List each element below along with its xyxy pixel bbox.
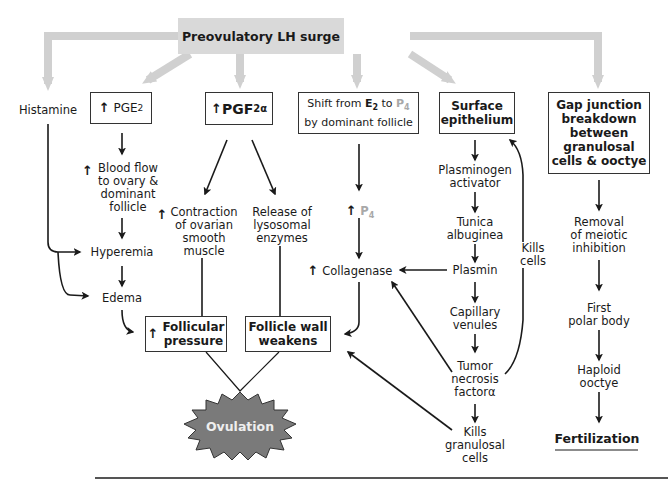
p4-increase-label: ↑ P4 [346, 204, 375, 222]
pge2-text: PGE [113, 101, 137, 115]
hyperemia-label: Hyperemia [91, 246, 154, 259]
p4-sub: 4 [404, 103, 410, 112]
gap-junction-box: Gap junction breakdown between granulosa… [548, 92, 650, 174]
follicular-pressure-box: ↑ Follicularpressure [145, 316, 227, 352]
gap-line1: Gap junction [556, 98, 642, 112]
p4-up-text: P [360, 204, 368, 218]
shift-e2-p4-box: Shift from E2 to P4 by dominant follicle [298, 92, 419, 134]
tnf-line3: factorα [451, 386, 498, 399]
increase-arrow-icon: ↑ [308, 263, 319, 278]
pgf2a-sub: 2α [253, 102, 267, 116]
follicular-line2: pressure [162, 334, 224, 348]
pgf2a-text: PGF [222, 102, 253, 116]
tunica-line2: albuginea [447, 229, 504, 242]
blood-line4: follicle [98, 201, 158, 214]
increase-arrow-icon: ↑ [157, 208, 168, 221]
follicular-text: Follicularpressure [162, 320, 224, 348]
plasminogen-line2: activator [438, 177, 512, 190]
kills-cells-label: Kills cells [520, 242, 546, 268]
increase-arrow-icon: ↑ [82, 164, 93, 177]
haploid-label: Haploid ooctye [577, 364, 621, 390]
contraction-label: ↑ Contraction of ovarian smooth muscle [171, 206, 238, 258]
increase-arrow-icon: ↑ [148, 327, 159, 341]
surface-epithelium-box: Surface epithelium [439, 92, 515, 134]
collagenase-label: ↑ Collagenase [308, 264, 393, 278]
ovulation-label: Ovulation [206, 420, 274, 433]
polar-line2: polar body [568, 315, 629, 328]
pge2-sub: 2 [138, 101, 144, 115]
p4-text: P [396, 97, 404, 110]
fertilization-label: Fertilization [555, 432, 640, 445]
collagenase-text: Collagenase [322, 264, 392, 278]
lh-surge-header: Preovulatory LH surge [178, 18, 344, 54]
lysosomal-label: Release of lysosomal enzymes [252, 206, 312, 245]
shift-text: Shift from [307, 97, 365, 110]
shift-line2: by dominant follicle [304, 115, 413, 130]
surface-line2: epithelium [441, 113, 514, 127]
haploid-line2: ooctye [577, 377, 621, 390]
increase-arrow-icon: ↑ [211, 102, 222, 116]
capillary-line2: venules [450, 319, 501, 332]
pgf2a-box: ↑PGF2α [205, 92, 273, 125]
gap-line2: breakdown [561, 112, 636, 126]
increase-arrow-icon: ↑ [99, 101, 110, 115]
header-title: Preovulatory LH surge [182, 29, 340, 44]
pge2-box: ↑ PGE2 [90, 92, 152, 124]
follicle-wall-box: Follicle wall weakens [245, 316, 331, 352]
contraction-line4: muscle [171, 245, 238, 258]
p4-up-sub: 4 [369, 211, 375, 220]
meiotic-line3: inhibition [570, 242, 627, 255]
tnf-label: Tumor necrosis factorα [451, 360, 498, 399]
capillary-label: Capillary venules [450, 306, 501, 332]
shift-line1: Shift from E2 to P4 [307, 96, 409, 115]
ovulation-connectors [206, 352, 279, 391]
plasminogen-label: Plasminogen activator [438, 164, 512, 190]
edema-label: Edema [102, 292, 142, 305]
polar-body-label: First polar body [568, 302, 629, 328]
tunica-label: Tunica albuginea [447, 216, 504, 242]
kills-g-line3: cells [445, 452, 505, 465]
gap-line4: granulosal [563, 140, 634, 154]
gap-line5: cells & ooctye [552, 154, 647, 168]
plasmin-label: Plasmin [453, 264, 498, 277]
surface-line1: Surface [451, 99, 503, 113]
to-text: to [378, 97, 396, 110]
kills-granulosal-label: Kills granulosal cells [445, 426, 505, 465]
gap-line3: between [570, 126, 628, 140]
lyso-line3: enzymes [252, 232, 312, 245]
follicle-wall-line1: Follicle wall [248, 320, 327, 334]
kills-c-line2: cells [520, 255, 546, 268]
histamine-label: Histamine [19, 104, 77, 117]
blood-flow-label: ↑ Blood flow to ovary & dominant follicl… [98, 162, 158, 214]
meiotic-label: Removal of meiotic inhibition [570, 216, 627, 255]
follicular-line1: Follicular [162, 320, 224, 334]
follicle-wall-line2: weakens [259, 334, 318, 348]
increase-arrow-icon: ↑ [346, 203, 357, 218]
